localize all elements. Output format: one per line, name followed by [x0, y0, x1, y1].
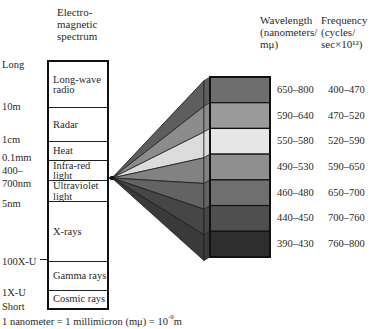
visible-light-band	[210, 103, 270, 129]
footnote-exponent: -9	[168, 313, 174, 321]
frequency-value: 400–470	[328, 84, 365, 95]
footnote-unit: m	[174, 316, 182, 327]
wavelength-value: 390–430	[277, 238, 314, 249]
wavelength-value: 490–530	[277, 161, 314, 172]
wavelength-value: 550–580	[277, 135, 314, 146]
frequency-value: 470–520	[328, 110, 365, 121]
frequency-value: 650–700	[328, 187, 365, 198]
wavelength-value: 650–800	[277, 84, 314, 95]
visible-light-band	[210, 154, 270, 180]
frequency-value: 700–760	[328, 212, 365, 223]
footnote-text: 1 nanometer = 1 millimicron (mμ) = 10	[2, 316, 168, 327]
wavelength-value: 460–480	[277, 187, 314, 198]
frequency-value: 590–650	[328, 161, 365, 172]
frequency-value: 520–590	[328, 135, 365, 146]
footnote: 1 nanometer = 1 millimicron (mμ) = 10-9m	[2, 313, 182, 327]
frequency-value: 760–800	[328, 238, 365, 249]
visible-light-band	[210, 206, 270, 232]
visible-light-fan	[0, 0, 380, 329]
wavelength-value: 590–640	[277, 110, 314, 121]
visible-light-band	[210, 180, 270, 206]
visible-light-band	[210, 77, 270, 103]
visible-light-band	[210, 231, 270, 257]
visible-light-band	[210, 128, 270, 154]
wavelength-value: 440–450	[277, 212, 314, 223]
